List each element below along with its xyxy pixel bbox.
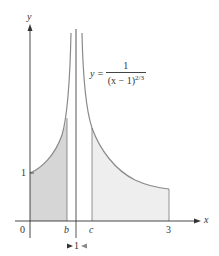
- asymptote-label: 1: [74, 241, 79, 251]
- x-tick-three-label: 3: [166, 225, 171, 235]
- right-shaded-region: [92, 128, 169, 221]
- formula-denominator: (x − 1)2/3: [108, 73, 144, 86]
- formula-fraction: 1 (x − 1)2/3: [108, 60, 144, 86]
- x-tick-c-label: c: [89, 225, 93, 235]
- x-axis-label: x: [204, 215, 208, 225]
- formula-exponent: 2/3: [135, 74, 144, 82]
- formula-numerator: 1: [106, 60, 146, 73]
- y-axis-arrow-icon: [28, 24, 33, 31]
- y-axis-label: y: [27, 12, 31, 22]
- function-formula: y = 1 (x − 1)2/3: [90, 60, 144, 86]
- x-axis-arrow-icon: [194, 219, 201, 224]
- origin-label: 0: [20, 225, 25, 235]
- arrow-left-icon: [81, 244, 87, 249]
- diagram-canvas: [0, 0, 219, 256]
- x-tick-b-label: b: [64, 225, 69, 235]
- y-tick-one-label: 1: [21, 168, 26, 178]
- arrow-right-icon: [67, 244, 73, 249]
- formula-lhs: y =: [90, 68, 104, 79]
- formula-denominator-base: (x − 1): [108, 75, 135, 86]
